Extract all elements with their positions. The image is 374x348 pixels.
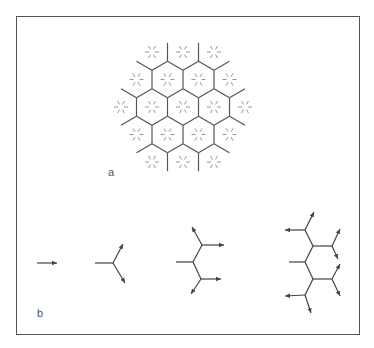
step-2-fork — [95, 244, 125, 283]
cell-star-icon — [192, 128, 206, 140]
hex-edge — [137, 116, 153, 125]
hex-edge — [183, 89, 199, 98]
hex-edge — [168, 89, 184, 98]
hex-edge — [183, 61, 199, 70]
step-4-fork — [285, 212, 340, 313]
hex-edge — [199, 144, 215, 153]
cell-star-icon — [176, 46, 190, 58]
cell-star-icon — [207, 46, 221, 58]
hex-edge — [214, 116, 230, 125]
cell-star-icon — [114, 101, 128, 113]
hex-edge — [230, 116, 246, 125]
cell-star-icon — [192, 73, 206, 85]
hex-edge — [199, 61, 215, 70]
cell-star-icon — [238, 101, 252, 113]
cell-star-icon — [161, 73, 175, 85]
hex-edge — [214, 89, 230, 98]
hex-edge — [168, 144, 184, 153]
hex-edge — [199, 89, 215, 98]
cell-star-icon — [176, 156, 190, 168]
hex-edge — [183, 144, 199, 153]
cell-star-icon — [207, 156, 221, 168]
hex-edge — [214, 144, 230, 153]
hex-edge — [199, 116, 215, 125]
branching-sequence — [37, 212, 340, 313]
hex-edge — [137, 89, 153, 98]
cell-star-icon — [130, 73, 144, 85]
hex-edge — [152, 61, 168, 70]
cell-star-icon — [145, 156, 159, 168]
panel-label-b: b — [37, 307, 43, 319]
hex-edge — [183, 116, 199, 125]
cell-star-icon — [223, 73, 237, 85]
cell-star-icon — [130, 128, 144, 140]
hex-edge — [152, 89, 168, 98]
hex-edge — [152, 116, 168, 125]
hex-edge — [230, 89, 246, 98]
cell-star-icon — [176, 101, 190, 113]
hex-edge — [137, 144, 153, 153]
cell-star-icon — [145, 46, 159, 58]
cell-star-icon — [161, 128, 175, 140]
cell-star-icon — [145, 101, 159, 113]
hex-edge — [121, 116, 137, 125]
diagram-canvas — [0, 0, 374, 348]
cell-star-icon — [223, 128, 237, 140]
step-3-fork — [176, 227, 224, 294]
hex-lattice-edges — [121, 43, 245, 171]
hex-edge — [137, 61, 153, 70]
cell-star-markers — [114, 46, 252, 168]
hex-edge — [168, 116, 184, 125]
hex-edge — [214, 61, 230, 70]
cell-star-icon — [207, 101, 221, 113]
hex-edge — [121, 89, 137, 98]
hex-edge — [168, 61, 184, 70]
hex-edge — [152, 144, 168, 153]
panel-label-a: a — [108, 166, 114, 178]
